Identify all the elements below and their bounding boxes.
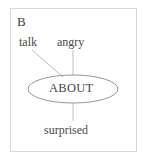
- node-label-surprised: surprised: [44, 124, 88, 136]
- figure-panel: B talk angry ABOUT surprised: [0, 0, 144, 165]
- node-label-talk: talk: [19, 36, 37, 48]
- node-label-angry: angry: [57, 36, 84, 48]
- edge-talk-about: [32, 50, 63, 77]
- panel-label: B: [17, 15, 26, 28]
- node-label-about: ABOUT: [49, 82, 94, 95]
